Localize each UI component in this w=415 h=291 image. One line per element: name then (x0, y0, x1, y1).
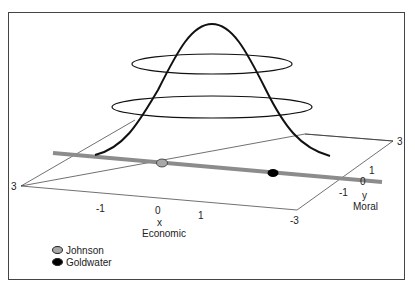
legend: Johnson Goldwater (52, 244, 112, 268)
goldwater-point (268, 169, 279, 177)
legend-label: Johnson (66, 245, 104, 256)
policy-line (53, 153, 382, 182)
x-tick-neg1: -1 (96, 203, 105, 214)
goldwater-swatch-icon (52, 258, 63, 266)
johnson-point (157, 159, 168, 167)
y-tick-1: 1 (369, 165, 375, 176)
y-tick-3: 3 (397, 136, 403, 147)
y-axis-letter: y (362, 190, 367, 201)
utility-curve (95, 24, 330, 156)
plane-back-edge (305, 134, 393, 141)
x-tick-0: 0 (155, 205, 161, 216)
y-tick-neg1: -1 (339, 187, 348, 198)
plane-back-edge-left (21, 120, 135, 186)
x-axis-letter: x (157, 217, 162, 228)
legend-item-goldwater: Goldwater (52, 256, 112, 268)
x-tick-neg3: -3 (290, 215, 299, 226)
legend-item-johnson: Johnson (52, 244, 112, 256)
x-axis-title: Economic (142, 228, 186, 239)
policy-plane (21, 134, 393, 210)
x-corner-label: 3 (11, 181, 17, 192)
y-tick-0: 0 (360, 176, 366, 187)
indifference-ellipse-upper (132, 54, 292, 74)
johnson-swatch-icon (52, 246, 63, 254)
legend-label: Goldwater (66, 257, 112, 268)
y-axis-title: Moral (353, 201, 378, 212)
x-tick-1: 1 (198, 210, 204, 221)
